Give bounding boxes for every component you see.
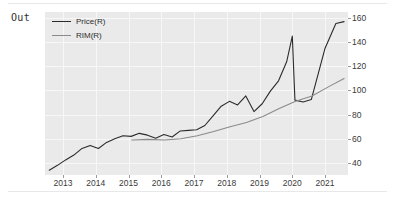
legend-line-swatch [52,21,71,22]
x-axis-tick-label: 2020 [283,178,302,188]
cell-divider-bottom [8,191,387,192]
legend-label: Price(R) [76,17,105,26]
legend-line-swatch [52,35,71,36]
y-tick-mark [348,163,351,164]
y-axis-tick-label: 80 [352,110,361,120]
x-axis-tick-label: 2013 [54,178,73,188]
x-axis-tick-label: 2021 [316,178,335,188]
y-tick-mark [348,66,351,67]
x-axis-tick-label: 2014 [86,178,105,188]
y-axis-tick-label: 140 [352,37,366,47]
legend-item[interactable]: RIM(R) [52,30,105,41]
legend-item[interactable]: Price(R) [52,16,105,27]
y-tick-mark [348,90,351,91]
y-tick-mark [348,18,351,19]
x-axis-tick-label: 2019 [250,178,269,188]
y-tick-mark [348,42,351,43]
cell-divider-top [8,3,387,4]
y-tick-mark [348,139,351,140]
legend-label: RIM(R) [76,31,102,40]
x-axis-tick-label: 2018 [217,178,236,188]
series-line-rim-r [132,78,344,140]
x-axis-tick-label: 2015 [119,178,138,188]
y-axis-tick-label: 60 [352,134,361,144]
y-axis-tick-label: 160 [352,13,366,23]
y-tick-mark [348,115,351,116]
chart-legend: Price(R)RIM(R) [52,16,105,41]
output-prompt-label: Out [11,12,30,23]
y-axis-tick-label: 100 [352,85,366,95]
x-axis-tick-label: 2016 [152,178,171,188]
series-line-price-r [49,22,344,171]
x-axis-tick-label: 2017 [185,178,204,188]
chart-figure: Price(R)RIM(R) 4060801001201401602013201… [45,12,348,175]
notebook-output-cell: Out Price(R)RIM(R) 406080100120140160201… [0,0,395,200]
y-axis-tick-label: 40 [352,158,361,168]
y-axis-tick-label: 120 [352,61,366,71]
